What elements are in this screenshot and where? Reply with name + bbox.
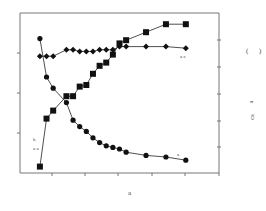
annotation-square-aa: a a [33, 146, 39, 151]
right-label-a: a [248, 101, 254, 104]
square-marker [163, 21, 169, 27]
square-marker [110, 52, 116, 58]
square-marker [143, 29, 149, 35]
circle-marker [97, 140, 102, 145]
annotation-diamond: a c [180, 54, 186, 59]
circle-marker [163, 154, 168, 159]
square-marker [83, 82, 89, 88]
square-marker [117, 40, 123, 46]
diamond-marker [97, 47, 103, 53]
diamond-marker [37, 53, 43, 59]
diamond-marker [83, 48, 89, 54]
diamond-marker [143, 44, 149, 50]
circle-marker [44, 74, 49, 79]
circle-marker [51, 86, 56, 91]
square-marker [70, 93, 76, 99]
right-label-paren-open: ( [246, 48, 248, 55]
diamond-marker [50, 53, 56, 59]
circle-marker [37, 36, 42, 41]
diamond-marker [183, 45, 189, 51]
chart [0, 0, 266, 211]
circle-marker [183, 158, 188, 163]
diamond-marker [63, 47, 69, 53]
diamond-marker [77, 48, 83, 54]
square-marker [63, 93, 69, 99]
diamond-marker [123, 44, 129, 50]
x-axis-label: a [128, 190, 131, 197]
circle-marker [64, 100, 69, 105]
circle-marker [77, 124, 82, 129]
diamond-marker [103, 47, 109, 53]
diamond-marker [70, 47, 76, 53]
square-marker [50, 108, 56, 114]
circle-marker [117, 146, 122, 151]
square-marker [90, 71, 96, 77]
square-marker [44, 116, 50, 122]
circle-marker [104, 143, 109, 148]
square-marker [97, 63, 103, 69]
right-label-ca: ca [249, 114, 255, 119]
right-label-paren-close: ) [259, 48, 261, 55]
circle-marker [84, 129, 89, 134]
annotation-square-h: h [33, 137, 36, 142]
square-marker [123, 37, 129, 43]
diamond-marker [90, 48, 96, 54]
diamond-marker [44, 53, 50, 59]
series-layer [37, 21, 189, 169]
annotation-circle: a [177, 152, 179, 157]
square-marker [103, 60, 109, 66]
square-marker [183, 21, 189, 27]
circle-marker [70, 118, 75, 123]
circle-marker [90, 135, 95, 140]
circle-marker [143, 153, 148, 158]
diamond-marker [163, 44, 169, 50]
square-marker [37, 164, 43, 170]
axis-ticks [17, 40, 221, 176]
square-marker [77, 84, 83, 90]
circle-marker [124, 150, 129, 155]
circle-marker [110, 145, 115, 150]
